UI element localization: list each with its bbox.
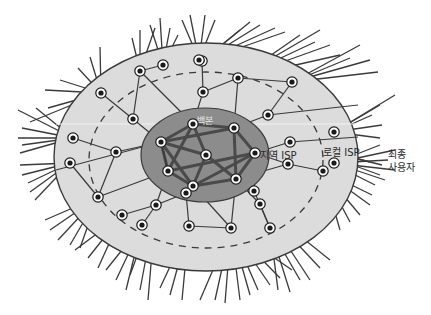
isp-router-node bbox=[93, 192, 103, 202]
isp-router-node bbox=[181, 188, 191, 198]
isp-router-node bbox=[285, 137, 295, 147]
isp-router-node bbox=[233, 73, 243, 83]
end-user-label-line1: 최종 bbox=[388, 148, 415, 161]
isp-router-node bbox=[255, 199, 265, 209]
isp-router-node bbox=[65, 158, 75, 168]
isp-router-node bbox=[151, 200, 161, 210]
isp-router-node bbox=[287, 77, 297, 87]
isp-router-node bbox=[263, 110, 273, 120]
isp-router-node bbox=[137, 220, 147, 230]
isp-router-node bbox=[184, 221, 194, 231]
isp-router-node bbox=[226, 223, 236, 233]
backbone-router-node bbox=[163, 166, 173, 176]
isp-router-node bbox=[96, 88, 106, 98]
isp-router-node bbox=[194, 55, 204, 65]
backbone-router-node bbox=[229, 123, 239, 133]
local-isp-label: 로컬 ISP bbox=[323, 148, 360, 158]
isp-router-node bbox=[158, 60, 168, 70]
backbone-router-node bbox=[201, 150, 211, 160]
isp-router-node bbox=[68, 133, 78, 143]
isp-router-node bbox=[135, 66, 145, 76]
backbone-router-node bbox=[250, 148, 260, 158]
regional-isp-label: 지역 ISP bbox=[260, 151, 297, 161]
backbone-label: 백본 bbox=[197, 117, 213, 126]
isp-router-node bbox=[111, 147, 121, 157]
isp-router-node bbox=[117, 210, 127, 220]
local-isp-router-node bbox=[329, 158, 339, 168]
isp-router-node bbox=[128, 114, 138, 124]
internet-hierarchy-diagram bbox=[0, 0, 431, 315]
local-isp-router-node bbox=[329, 127, 339, 137]
isp-router-node bbox=[318, 166, 328, 176]
backbone-router-node bbox=[156, 137, 166, 147]
isp-router-node bbox=[198, 87, 208, 97]
end-user-label-line2: 사용자 bbox=[388, 161, 415, 174]
backbone-router-node bbox=[231, 174, 241, 184]
isp-router-node bbox=[265, 223, 275, 233]
end-user-label: 최종 사용자 bbox=[388, 148, 415, 174]
isp-router-node bbox=[249, 186, 259, 196]
